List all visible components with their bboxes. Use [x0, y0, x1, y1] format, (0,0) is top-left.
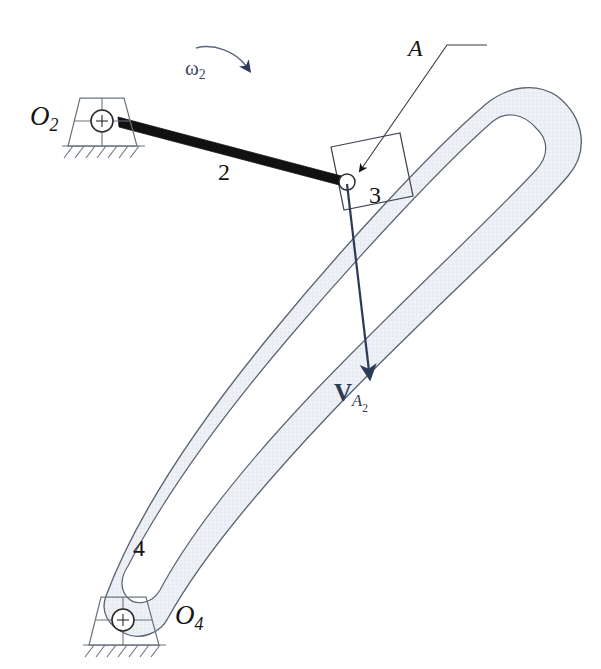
o4-ground-hatch	[85, 645, 160, 657]
curved-slot	[122, 115, 546, 603]
label-o4: O4	[175, 602, 203, 634]
label-link-3: 3	[369, 183, 381, 207]
label-link-2: 2	[218, 160, 230, 184]
label-o2: O2	[30, 103, 58, 135]
mechanism-svg	[0, 0, 601, 669]
crank-body	[118, 117, 349, 187]
o2-ground-hatch	[64, 146, 139, 158]
label-velocity-a2: VA2	[334, 380, 368, 414]
label-omega2: ω2	[185, 58, 206, 82]
diagram-canvas: O2 O4 ω2 A 2 3 4 VA2	[0, 0, 601, 669]
crank-link-2[interactable]	[118, 117, 349, 187]
fixed-pivot-ground-o2	[62, 98, 145, 158]
rocker-link-4	[104, 88, 581, 637]
label-point-a: A	[408, 36, 423, 60]
label-link-4: 4	[133, 536, 145, 560]
